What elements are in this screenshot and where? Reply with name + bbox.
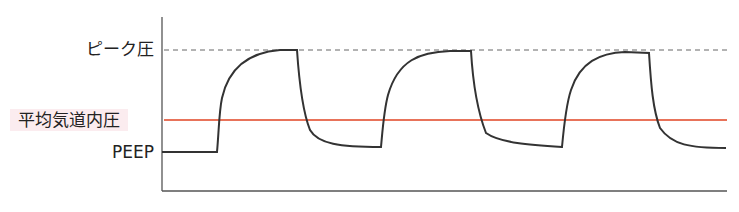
pressure-waveform-diagram [0, 0, 739, 212]
pressure-waveform [162, 50, 726, 152]
